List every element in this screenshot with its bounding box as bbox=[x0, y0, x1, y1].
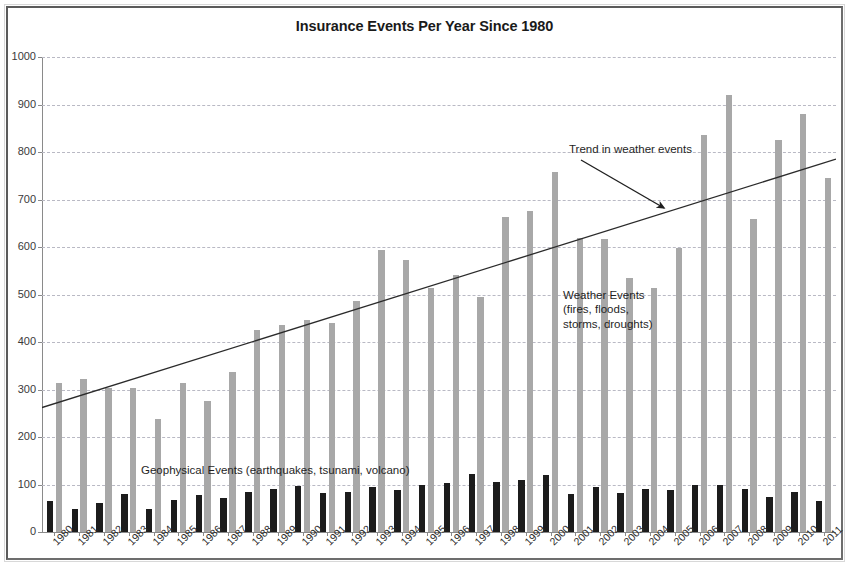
bar-weather-2001[interactable] bbox=[577, 238, 583, 533]
bar-geophysical-1995[interactable] bbox=[419, 485, 425, 533]
bar-weather-1980[interactable] bbox=[56, 383, 62, 532]
bar-group-2009[interactable] bbox=[762, 57, 787, 532]
bar-group-1999[interactable] bbox=[513, 57, 538, 532]
y-tick-mark-0 bbox=[38, 532, 42, 533]
bar-group-1996[interactable] bbox=[439, 57, 464, 532]
bar-group-1980[interactable] bbox=[42, 57, 67, 532]
bar-geophysical-1986[interactable] bbox=[196, 495, 202, 532]
bar-geophysical-2000[interactable] bbox=[543, 475, 549, 532]
bar-geophysical-1989[interactable] bbox=[270, 489, 276, 532]
bar-weather-1999[interactable] bbox=[527, 211, 533, 532]
y-tick-label-300: 300 bbox=[0, 383, 36, 395]
bar-geophysical-1983[interactable] bbox=[121, 494, 127, 532]
bar-geophysical-2001[interactable] bbox=[568, 494, 574, 532]
bar-geophysical-1988[interactable] bbox=[245, 492, 251, 532]
bar-geophysical-1991[interactable] bbox=[320, 493, 326, 532]
bar-group-1987[interactable] bbox=[216, 57, 241, 532]
bar-group-2000[interactable] bbox=[538, 57, 563, 532]
bar-weather-1996[interactable] bbox=[453, 275, 459, 532]
bar-geophysical-2010[interactable] bbox=[791, 492, 797, 532]
bar-weather-1997[interactable] bbox=[477, 297, 483, 532]
y-tick-label-0: 0 bbox=[0, 525, 36, 537]
bar-group-1998[interactable] bbox=[489, 57, 514, 532]
bar-geophysical-1998[interactable] bbox=[493, 482, 499, 532]
bar-weather-2009[interactable] bbox=[775, 140, 781, 532]
bar-group-1989[interactable] bbox=[265, 57, 290, 532]
bar-geophysical-2002[interactable] bbox=[593, 487, 599, 532]
y-tick-label-1000: 1000 bbox=[0, 50, 36, 62]
bar-geophysical-2003[interactable] bbox=[617, 493, 623, 532]
bar-group-1990[interactable] bbox=[290, 57, 315, 532]
bar-geophysical-1993[interactable] bbox=[369, 487, 375, 532]
bar-weather-2011[interactable] bbox=[825, 178, 831, 532]
bar-weather-1985[interactable] bbox=[180, 383, 186, 532]
bar-weather-1993[interactable] bbox=[378, 250, 384, 532]
bar-geophysical-1987[interactable] bbox=[220, 498, 226, 532]
bar-group-1986[interactable] bbox=[191, 57, 216, 532]
chart-figure: Insurance Events Per Year Since 1980 Tre… bbox=[0, 0, 849, 566]
bar-group-2006[interactable] bbox=[687, 57, 712, 532]
bar-group-1983[interactable] bbox=[116, 57, 141, 532]
bar-geophysical-1999[interactable] bbox=[518, 480, 524, 532]
bar-geophysical-1992[interactable] bbox=[345, 492, 351, 532]
bar-group-1997[interactable] bbox=[464, 57, 489, 532]
bar-weather-2000[interactable] bbox=[552, 172, 558, 532]
bar-group-2007[interactable] bbox=[712, 57, 737, 532]
bar-group-1992[interactable] bbox=[340, 57, 365, 532]
y-tick-label-100: 100 bbox=[0, 478, 36, 490]
bar-group-2008[interactable] bbox=[737, 57, 762, 532]
bar-group-1994[interactable] bbox=[389, 57, 414, 532]
bar-group-1981[interactable] bbox=[67, 57, 92, 532]
y-tick-label-800: 800 bbox=[0, 145, 36, 157]
bar-weather-1991[interactable] bbox=[329, 323, 335, 532]
bar-weather-2006[interactable] bbox=[701, 135, 707, 532]
bar-group-1995[interactable] bbox=[414, 57, 439, 532]
bar-geophysical-2005[interactable] bbox=[667, 490, 673, 532]
annotation-geophysical-label: Geophysical Events (earthquakes, tsunami… bbox=[141, 463, 409, 477]
bar-geophysical-2004[interactable] bbox=[642, 489, 648, 532]
bar-weather-2005[interactable] bbox=[676, 248, 682, 532]
bar-weather-1988[interactable] bbox=[254, 330, 260, 532]
bar-geophysical-2009[interactable] bbox=[766, 497, 772, 532]
bar-weather-1983[interactable] bbox=[130, 388, 136, 532]
bar-geophysical-1996[interactable] bbox=[444, 483, 450, 532]
bar-group-1988[interactable] bbox=[241, 57, 266, 532]
bar-group-2005[interactable] bbox=[662, 57, 687, 532]
bar-geophysical-1980[interactable] bbox=[47, 501, 53, 532]
y-tick-label-500: 500 bbox=[0, 288, 36, 300]
bar-weather-1987[interactable] bbox=[229, 372, 235, 532]
bar-group-2011[interactable] bbox=[811, 57, 836, 532]
bar-geophysical-2006[interactable] bbox=[692, 485, 698, 533]
bar-geophysical-1990[interactable] bbox=[295, 486, 301, 532]
y-tick-label-700: 700 bbox=[0, 193, 36, 205]
y-tick-label-400: 400 bbox=[0, 335, 36, 347]
bar-group-1993[interactable] bbox=[365, 57, 390, 532]
bar-geophysical-2008[interactable] bbox=[742, 489, 748, 532]
chart-title: Insurance Events Per Year Since 1980 bbox=[0, 18, 849, 34]
bar-group-1985[interactable] bbox=[166, 57, 191, 532]
bar-weather-1981[interactable] bbox=[80, 379, 86, 532]
bar-weather-2010[interactable] bbox=[800, 114, 806, 532]
bar-weather-2002[interactable] bbox=[601, 239, 607, 532]
bar-weather-1982[interactable] bbox=[105, 388, 111, 532]
bar-weather-1989[interactable] bbox=[279, 325, 285, 532]
bar-weather-1995[interactable] bbox=[428, 288, 434, 532]
bar-group-1982[interactable] bbox=[92, 57, 117, 532]
bar-group-2010[interactable] bbox=[786, 57, 811, 532]
annotation-trend-label: Trend in weather events bbox=[569, 142, 692, 156]
y-tick-label-200: 200 bbox=[0, 430, 36, 442]
bar-weather-1990[interactable] bbox=[304, 320, 310, 532]
annotation-weather-label: Weather Events (fires, floods, storms, d… bbox=[563, 288, 652, 331]
y-tick-label-900: 900 bbox=[0, 98, 36, 110]
bar-group-1991[interactable] bbox=[315, 57, 340, 532]
bar-group-1984[interactable] bbox=[141, 57, 166, 532]
y-tick-label-600: 600 bbox=[0, 240, 36, 252]
bar-weather-2008[interactable] bbox=[750, 219, 756, 533]
bar-weather-2007[interactable] bbox=[726, 95, 732, 532]
bar-geophysical-1994[interactable] bbox=[394, 490, 400, 532]
bar-weather-1998[interactable] bbox=[502, 217, 508, 532]
bar-geophysical-2007[interactable] bbox=[717, 485, 723, 532]
bar-geophysical-1997[interactable] bbox=[469, 474, 475, 532]
bar-weather-1992[interactable] bbox=[353, 301, 359, 532]
bar-weather-1994[interactable] bbox=[403, 260, 409, 532]
